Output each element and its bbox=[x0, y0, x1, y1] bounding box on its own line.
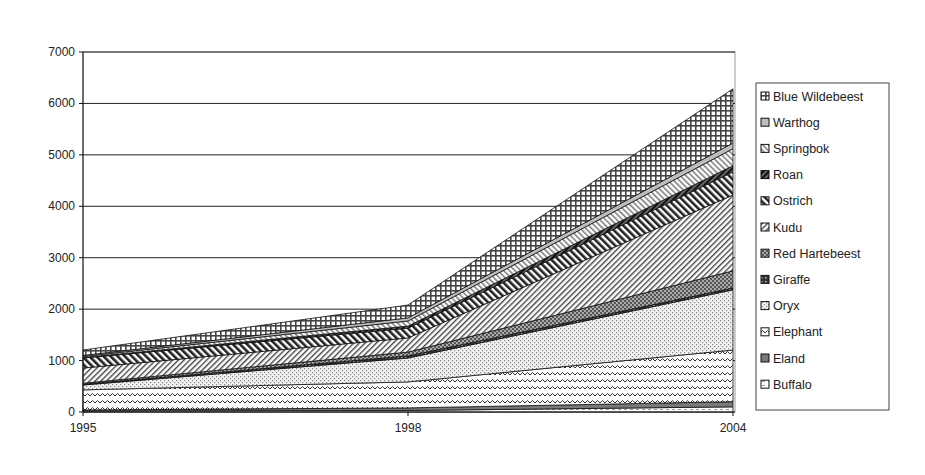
y-tick-label: 6000 bbox=[48, 96, 75, 110]
legend-swatch-icon bbox=[761, 92, 769, 100]
x-tick-label: 2004 bbox=[720, 421, 747, 435]
legend-item-red-hartebeest: Red Hartebeest bbox=[761, 247, 861, 261]
legend-label: Oryx bbox=[773, 299, 800, 313]
legend-item-blue-wildebeest: Blue Wildebeest bbox=[761, 90, 864, 104]
legend-label: Red Hartebeest bbox=[773, 247, 861, 261]
legend-swatch-icon bbox=[761, 249, 769, 257]
legend-label: Springbok bbox=[773, 142, 830, 156]
x-axis-ticks: 199519982004 bbox=[70, 412, 747, 435]
legend-label: Eland bbox=[773, 352, 805, 366]
legend-swatch-icon bbox=[761, 302, 769, 310]
legend-swatch-icon bbox=[761, 328, 769, 336]
legend-label: Buffalo bbox=[773, 378, 812, 392]
y-tick-label: 2000 bbox=[48, 302, 75, 316]
x-tick-label: 1995 bbox=[70, 421, 97, 435]
legend-label: Blue Wildebeest bbox=[773, 90, 864, 104]
x-tick-label: 1998 bbox=[395, 421, 422, 435]
legend-label: Kudu bbox=[773, 221, 802, 235]
y-axis-ticks: 01000200030004000500060007000 bbox=[48, 45, 83, 419]
y-tick-label: 4000 bbox=[48, 199, 75, 213]
legend-label: Warthog bbox=[773, 116, 820, 130]
plot-area: 01000200030004000500060007000 1995199820… bbox=[48, 45, 746, 435]
legend-swatch-icon bbox=[761, 380, 769, 388]
legend-swatch-icon bbox=[761, 354, 769, 362]
stacked-area-chart: 01000200030004000500060007000 1995199820… bbox=[0, 0, 925, 475]
legend-swatch-icon bbox=[761, 144, 769, 152]
legend-label: Elephant bbox=[773, 325, 823, 339]
legend-swatch-icon bbox=[761, 118, 769, 126]
legend-label: Giraffe bbox=[773, 273, 810, 287]
y-tick-label: 1000 bbox=[48, 354, 75, 368]
legend-swatch-icon bbox=[761, 171, 769, 179]
legend: Blue WildebeestWarthogSpringbokRoanOstri… bbox=[756, 83, 889, 410]
y-tick-label: 5000 bbox=[48, 148, 75, 162]
legend-swatch-icon bbox=[761, 223, 769, 231]
legend-swatch-icon bbox=[761, 197, 769, 205]
y-tick-label: 0 bbox=[68, 405, 75, 419]
legend-label: Ostrich bbox=[773, 194, 813, 208]
y-tick-label: 3000 bbox=[48, 251, 75, 265]
legend-swatch-icon bbox=[761, 275, 769, 283]
y-tick-label: 7000 bbox=[48, 45, 75, 59]
legend-label: Roan bbox=[773, 168, 803, 182]
